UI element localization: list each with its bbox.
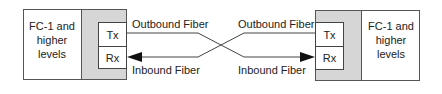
arrowhead-left-icon [127, 52, 142, 62]
fiber-lines [0, 0, 442, 94]
fiber-left-to-right [127, 33, 306, 57]
left-outbound-fiber-label: Outbound Fiber [132, 18, 208, 30]
right-outbound-fiber-label: Outbound Fiber [238, 18, 314, 30]
fiber-right-to-left [136, 33, 315, 57]
arrowhead-right-icon [300, 52, 315, 62]
right-inbound-fiber-label: Inbound Fiber [238, 64, 306, 76]
left-inbound-fiber-label: Inbound Fiber [132, 64, 200, 76]
